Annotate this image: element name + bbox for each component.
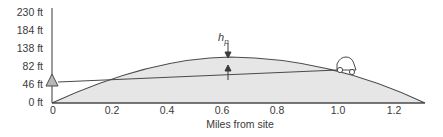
height-label: hp [218, 31, 229, 46]
y-tick-label: 0 ft [28, 96, 43, 108]
earth-curvature-diagram: 230 ft 184 ft 138 ft 82 ft 46 ft 0 ft 0 … [0, 0, 443, 137]
x-tick-label: 0.8 [270, 104, 285, 116]
x-tick-label: 0.2 [105, 104, 120, 116]
x-tick-label: 0.6 [215, 104, 230, 116]
diagram-graphics [0, 0, 443, 137]
y-tick-label: 230 ft [17, 6, 43, 18]
y-tick-label: 184 ft [17, 24, 43, 36]
x-tick-label: 0.4 [160, 104, 175, 116]
x-tick-label: 1.0 [331, 104, 346, 116]
x-tick-label: 1.2 [387, 104, 402, 116]
y-tick-label: 82 ft [23, 60, 43, 72]
y-tick-label: 46 ft [23, 78, 43, 90]
observer-triangle-icon [46, 74, 58, 86]
y-tick-label: 138 ft [17, 42, 43, 54]
x-axis-title: Miles from site [206, 118, 274, 130]
car-icon [337, 57, 356, 75]
height-label-subscript: p [224, 37, 228, 46]
x-tick-label: 0 [50, 104, 56, 116]
